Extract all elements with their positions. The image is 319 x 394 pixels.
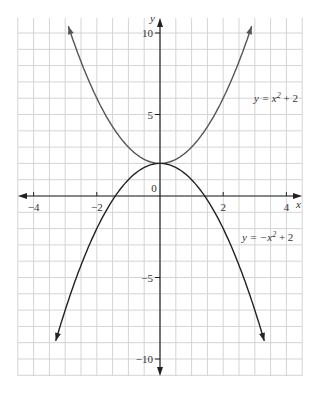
curve-arrow-icon [55, 332, 61, 341]
x-tick-label: 0 [151, 182, 157, 194]
curve-equation-label: y = −x2 + 2 [241, 230, 293, 243]
y-tick-label: 10 [142, 27, 154, 39]
curve-arrow-icon [68, 26, 74, 35]
y-axis-up-arrow-icon [157, 18, 163, 27]
y-tick-label: 5 [148, 109, 154, 121]
curve-arrow-icon [259, 332, 265, 341]
x-tick-label: −2 [91, 201, 103, 213]
curve-equation-label: y = x2 + 2 [253, 91, 298, 104]
y-tick-label: −10 [136, 353, 154, 365]
parabola-chart: −4−2024105−5−10xyy = x2 + 2y = −x2 + 2 [0, 0, 319, 394]
x-tick-label: 4 [284, 201, 290, 213]
x-axis-left-arrow-icon [18, 193, 27, 199]
x-tick-label: −4 [28, 201, 40, 213]
x-axis-label: x [295, 198, 301, 210]
y-axis-label: y [149, 12, 155, 24]
y-axis-down-arrow-icon [157, 367, 163, 376]
curve-arrow-icon [246, 26, 252, 35]
x-tick-label: 2 [220, 201, 226, 213]
y-tick-label: −5 [141, 272, 153, 284]
